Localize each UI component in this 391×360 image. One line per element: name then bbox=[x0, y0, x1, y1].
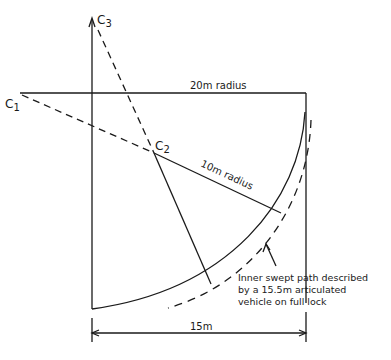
label-c1: C1 bbox=[5, 97, 20, 113]
swept-path-annotation: Inner swept path described by a 15.5m ar… bbox=[238, 272, 388, 308]
label-radius-10: 10m radius bbox=[199, 158, 255, 192]
annotation-line-3: vehicle on full lock bbox=[238, 296, 388, 308]
annotation-line-2: by a 15.5m articulated bbox=[238, 284, 388, 296]
label-c2: C2 bbox=[155, 139, 170, 155]
annotation-line-1: Inner swept path described bbox=[238, 272, 388, 284]
label-c3: C3 bbox=[97, 13, 112, 29]
label-radius-20: 20m radius bbox=[190, 80, 247, 91]
radius-10-line bbox=[154, 153, 281, 213]
label-dimension-15: 15m bbox=[190, 321, 212, 332]
c1-c2-dashed-line bbox=[22, 95, 154, 153]
c3-c2-dashed-line bbox=[98, 30, 154, 153]
c2-radial-line bbox=[154, 153, 211, 284]
